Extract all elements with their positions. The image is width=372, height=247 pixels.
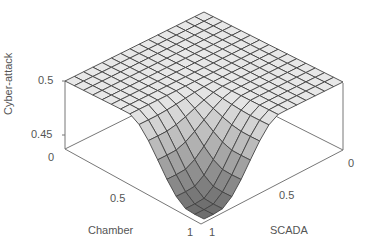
x-tick-0: 0 (48, 151, 54, 163)
surface-plot (0, 0, 372, 247)
z-tick-0.5: 0.5 (38, 74, 53, 86)
surface-mesh (65, 12, 343, 219)
z-tick-0.45: 0.45 (31, 128, 52, 140)
y-tick-1: 1 (209, 226, 215, 238)
y-tick-0: 0 (348, 157, 354, 169)
x-axis-label: Chamber (88, 224, 133, 236)
y-axis-label: SCADA (270, 224, 308, 236)
y-tick-0.5: 0.5 (279, 189, 294, 201)
x-tick-1: 1 (187, 226, 193, 238)
x-tick-0.5: 0.5 (110, 192, 125, 204)
z-axis-label: Cyber-attack (2, 53, 14, 115)
